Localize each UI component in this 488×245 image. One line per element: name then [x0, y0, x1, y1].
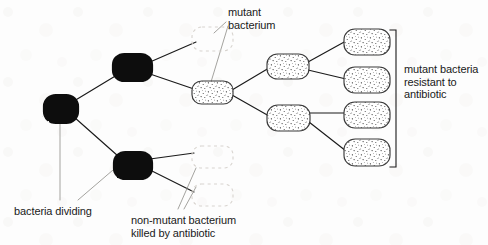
label-mutant-bacteria-resistant: mutant bacteria resistant to antibiotic: [404, 63, 478, 101]
gen2-lower-cell: [114, 152, 152, 179]
diagram-canvas: mutant bacteriummutant bacteria resistan…: [0, 0, 488, 245]
gen3-mutant-cell: [192, 81, 233, 104]
gen4-mutant-upper-cell: [267, 54, 309, 79]
gen2-upper-cell: [113, 54, 152, 81]
label-non-mutant-killed: non-mutant bacterium killed by antibioti…: [131, 214, 236, 239]
label-mutant-bacterium: mutant bacterium: [228, 6, 275, 31]
gen5-mutant-cell-2: [344, 67, 390, 93]
gen5-mutant-cell-3: [344, 102, 390, 128]
gen5-mutant-cell-4: [344, 139, 390, 166]
label-bacteria-dividing: bacteria dividing: [14, 205, 92, 218]
gen5-mutant-cell-1: [344, 29, 390, 55]
founder-cell: [44, 95, 78, 123]
gen4-mutant-lower-cell: [267, 105, 310, 131]
